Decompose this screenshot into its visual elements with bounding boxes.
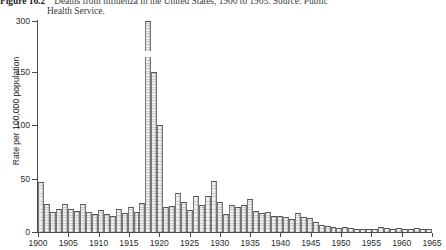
y-tick-label: 300 — [16, 16, 30, 26]
x-tick-mark — [402, 233, 403, 237]
y-tick-mark — [32, 72, 37, 73]
x-tick-label: 1945 — [294, 238, 328, 248]
x-tick-mark — [38, 233, 39, 237]
x-tick-label: 1910 — [82, 238, 116, 248]
y-tick-label-wrap: 150 — [0, 67, 30, 77]
x-tick-mark — [190, 233, 191, 237]
x-tick-mark — [371, 233, 372, 237]
chart-plot-area: Rate per 100,000 population 050100150300… — [0, 18, 436, 250]
x-tick-label: 1955 — [354, 238, 388, 248]
x-tick-mark — [220, 233, 221, 237]
caption-text-line-2: Health Service. — [47, 6, 105, 17]
x-tick-label: 1960 — [385, 238, 419, 248]
x-tick-mark — [129, 233, 130, 237]
y-tick-label: 0 — [25, 227, 30, 237]
x-tick-label: 1930 — [203, 238, 237, 248]
y-tick-label-wrap: 300 — [0, 16, 30, 26]
x-tick-mark — [68, 233, 69, 237]
y-tick-mark — [32, 125, 37, 126]
x-tick-label: 1915 — [112, 238, 146, 248]
x-tick-mark — [311, 233, 312, 237]
x-tick-label: 1935 — [233, 238, 267, 248]
x-tick-label: 1965 — [415, 238, 446, 248]
y-tick-label-wrap: 100 — [0, 120, 30, 130]
x-tick-label: 1900 — [21, 238, 55, 248]
bar-series — [38, 18, 432, 233]
y-tick-label: 100 — [16, 120, 30, 130]
x-tick-label: 1925 — [173, 238, 207, 248]
x-tick-label: 1905 — [51, 238, 85, 248]
y-tick-label: 50 — [20, 174, 30, 184]
y-tick-label: 150 — [16, 67, 30, 77]
x-tick-label: 1920 — [142, 238, 176, 248]
x-tick-mark — [432, 233, 433, 237]
y-tick-mark — [32, 21, 37, 22]
axis-break-gap — [38, 51, 432, 57]
x-tick-mark — [99, 233, 100, 237]
x-tick-mark — [341, 233, 342, 237]
y-tick-label-wrap: 0 — [0, 227, 30, 237]
bar — [426, 229, 432, 232]
x-tick-mark — [280, 233, 281, 237]
x-tick-mark — [250, 233, 251, 237]
y-tick-mark — [32, 179, 37, 180]
figure-number: Figure 16.2 — [0, 0, 45, 6]
y-tick-label-wrap: 50 — [0, 174, 30, 184]
x-tick-label: 1950 — [324, 238, 358, 248]
y-tick-mark — [32, 232, 37, 233]
x-tick-label: 1940 — [263, 238, 297, 248]
x-tick-mark — [159, 233, 160, 237]
